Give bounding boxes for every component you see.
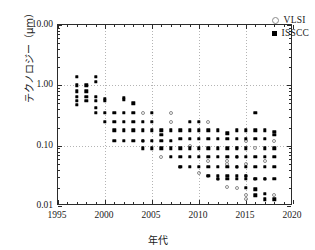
data-point-isscc [113,129,116,132]
data-point-isscc [84,84,87,87]
plot-area [57,24,292,205]
axis-tick-minor [86,25,87,27]
data-point-isscc [225,147,228,150]
data-point-isscc [235,177,238,180]
axis-tick-minor [58,188,60,189]
axis-tick-minor [161,202,162,204]
axis-tick-minor [289,91,291,92]
data-point-isscc [113,111,116,114]
data-point-isscc [150,111,153,114]
axis-tick-minor [289,88,291,89]
data-point-isscc [141,147,144,150]
data-point-isscc [141,120,144,123]
data-point-isscc [122,98,125,101]
data-point-isscc [254,194,257,197]
data-point-isscc [131,139,134,142]
axis-tick-minor [58,170,60,171]
legend-label-isscc: ISSCC [282,27,309,40]
data-point-isscc [94,95,97,98]
axis-tick-minor [77,25,78,27]
data-point-vlsi [244,197,248,201]
data-point-isscc [272,197,275,200]
axis-tick [58,200,59,204]
axis-tick-minor [289,49,291,50]
axis-tick-minor [67,25,68,27]
axis-tick-minor [208,202,209,204]
axis-tick-minor [58,109,60,110]
axis-tick-minor [190,25,191,27]
data-point-isscc [122,120,125,123]
data-point-isscc [113,120,116,123]
data-point-isscc [272,155,275,158]
axis-tick-minor [77,202,78,204]
data-point-isscc [178,147,181,150]
data-point-isscc [225,137,228,140]
filled-square-icon [272,31,277,36]
data-point-isscc [84,95,87,98]
axis-tick-minor [190,202,191,204]
axis-tick-minor [289,128,291,129]
data-point-isscc [216,129,219,132]
data-point-isscc [225,165,228,168]
data-point-isscc [188,147,191,150]
axis-tick [152,200,153,204]
axis-tick-minor [124,25,125,27]
axis-tick-minor [96,202,97,204]
axis-tick-minor [58,99,60,100]
x-tick-label: 2020 [283,210,302,220]
axis-tick-minor [227,25,228,27]
axis-tick-minor [289,164,291,165]
axis-tick-minor [237,25,238,27]
gridline-vertical [199,25,200,204]
data-point-isscc [75,95,78,98]
axis-tick-minor [133,202,134,204]
data-point-isscc [207,129,210,132]
axis-tick-minor [58,117,60,118]
data-point-isscc [122,139,125,142]
axis-tick-minor [289,188,291,189]
data-point-isscc [188,129,191,132]
axis-tick-minor [58,88,60,89]
data-point-vlsi [159,155,163,159]
data-point-vlsi [169,111,173,115]
axis-tick-minor [58,128,60,129]
data-point-isscc [94,80,97,83]
axis-tick-minor [133,25,134,27]
data-point-isscc [263,129,266,132]
data-point-vlsi [141,111,145,115]
axis-tick-minor [289,99,291,100]
axis-tick-minor [171,25,172,27]
data-point-isscc [244,186,247,189]
data-point-isscc [94,99,97,102]
data-point-isscc [207,155,210,158]
x-axis-title: 年代 [0,232,315,247]
data-point-isscc [75,84,78,87]
axis-tick-minor [114,202,115,204]
gridline-vertical [152,25,153,204]
axis-tick [105,200,106,204]
data-point-isscc [150,129,153,132]
axis-tick-minor [289,152,291,153]
data-point-isscc [216,147,219,150]
axis-tick-minor [58,91,60,92]
data-point-isscc [103,99,106,102]
data-point-isscc [244,147,247,150]
axis-tick-minor [289,67,291,68]
x-tick-label: 2015 [236,210,255,220]
legend-item-isscc: ISSCC [272,27,309,40]
data-point-isscc [150,120,153,123]
data-point-isscc [216,137,219,140]
data-point-isscc [244,177,247,180]
data-point-isscc [197,155,200,158]
axis-tick-minor [58,34,60,35]
data-point-isscc [272,147,275,150]
data-point-vlsi [272,139,276,143]
axis-tick-minor [289,159,291,160]
axis-tick-minor [289,170,291,171]
axis-tick-minor [237,202,238,204]
axis-tick-minor [289,117,291,118]
axis-tick-minor [289,109,291,110]
axis-tick-minor [255,25,256,27]
data-point-isscc [254,111,257,114]
data-point-isscc [169,129,172,132]
